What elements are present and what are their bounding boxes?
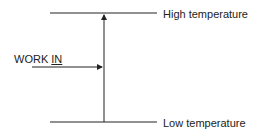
work-label-prefix: WORK <box>14 53 51 65</box>
low-temperature-label: Low temperature <box>163 117 246 129</box>
work-label-in: IN <box>51 53 62 65</box>
heat-pump-diagram <box>0 0 258 136</box>
high-temperature-label: High temperature <box>163 8 248 20</box>
work-in-label: WORK IN <box>14 53 62 65</box>
